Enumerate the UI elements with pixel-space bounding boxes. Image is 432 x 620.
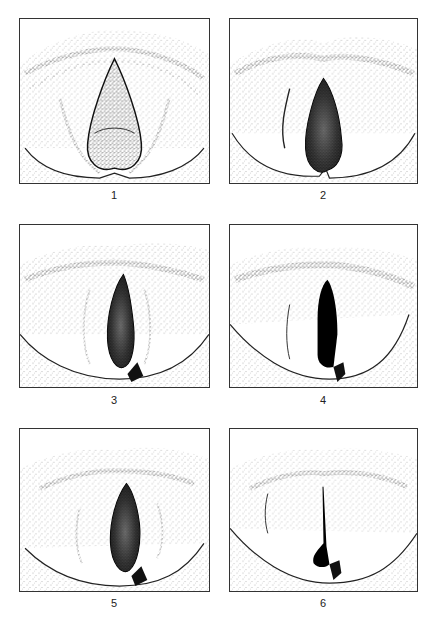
panel-label-1: 1 <box>104 189 124 201</box>
panel-2 <box>229 18 418 184</box>
glottis-illustration-1 <box>20 19 209 183</box>
panel-3 <box>19 224 210 388</box>
glottis-illustration-4 <box>230 225 417 387</box>
panel-label-5: 5 <box>104 597 124 609</box>
glottis-illustration-6 <box>230 429 417 591</box>
glottis-illustration-5 <box>20 429 209 591</box>
panel-label-4: 4 <box>313 394 333 406</box>
panel-label-2: 2 <box>313 189 333 201</box>
panel-label-6: 6 <box>313 597 333 609</box>
glottis-illustration-3 <box>20 225 209 387</box>
panel-label-3: 3 <box>104 394 124 406</box>
panel-6 <box>229 428 418 592</box>
panel-5 <box>19 428 210 592</box>
panel-4 <box>229 224 418 388</box>
panel-1 <box>19 18 210 184</box>
glottis-illustration-2 <box>230 19 417 183</box>
